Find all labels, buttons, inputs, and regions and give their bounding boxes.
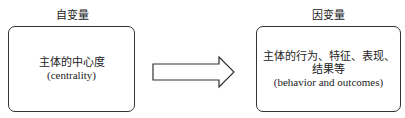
dependent-variable-text-cn: 主体的行为、特征、表现、 [263, 50, 395, 63]
dependent-variable-text-cn-2: 结果等 [312, 63, 345, 76]
dependent-variable-title: 因变量 [296, 6, 360, 22]
dependent-variable-text-en: (behavior and outcomes) [274, 76, 383, 89]
dependent-variable-box: 主体的行为、特征、表现、 结果等 (behavior and outcomes) [256, 26, 401, 112]
